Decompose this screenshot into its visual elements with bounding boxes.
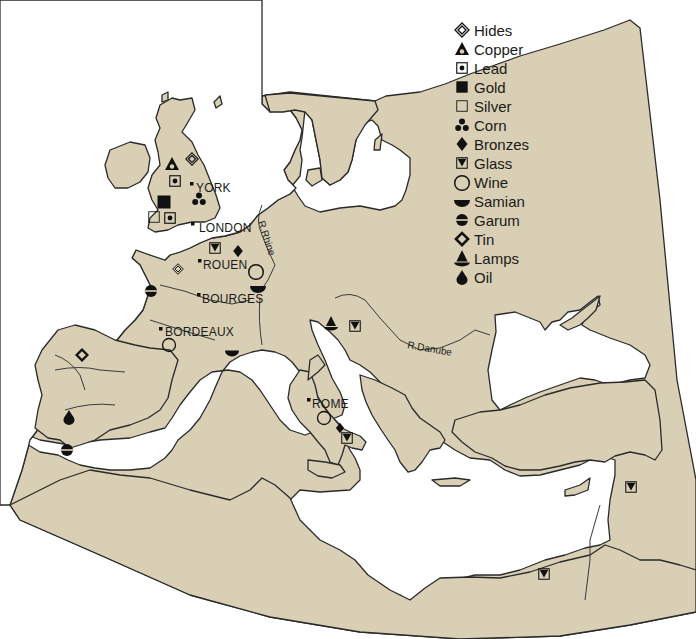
svg-text:Garum: Garum <box>474 212 520 229</box>
hides-icon <box>455 23 469 37</box>
gold-icon <box>456 81 467 92</box>
svg-text:ROUEN: ROUEN <box>203 258 247 272</box>
svg-text:ROME: ROME <box>312 397 349 411</box>
svg-text:YORK: YORK <box>196 181 231 195</box>
svg-text:Lamps: Lamps <box>474 250 519 267</box>
gold-icon <box>158 196 171 209</box>
city-london: LONDON <box>191 221 252 235</box>
legend-item-lead: Lead <box>457 60 508 77</box>
svg-text:Gold: Gold <box>474 79 506 96</box>
svg-text:Lead: Lead <box>474 60 507 77</box>
svg-text:BORDEAUX: BORDEAUX <box>165 325 234 339</box>
svg-text:Glass: Glass <box>474 155 512 172</box>
trade-map: YORK LONDON ROUEN BOURGES BORDEAUX ROME … <box>0 0 696 639</box>
svg-text:Corn: Corn <box>474 117 507 134</box>
svg-text:Copper: Copper <box>474 41 523 58</box>
city-york: YORK <box>190 181 231 195</box>
svg-text:Wine: Wine <box>474 174 508 191</box>
city-rome: ROME <box>307 397 349 411</box>
legend-item-copper: Copper <box>455 41 523 58</box>
svg-text:Tin: Tin <box>474 231 494 248</box>
svg-text:Hides: Hides <box>474 22 512 39</box>
svg-text:LONDON: LONDON <box>199 221 252 235</box>
city-bourges: BOURGES <box>197 292 263 306</box>
copper-icon <box>455 42 469 55</box>
city-rouen: ROUEN <box>198 258 247 272</box>
svg-text:Silver: Silver <box>474 98 512 115</box>
svg-text:Oil: Oil <box>474 269 492 286</box>
svg-text:Samian: Samian <box>474 193 525 210</box>
svg-text:BOURGES: BOURGES <box>202 292 263 306</box>
svg-text:Bronzes: Bronzes <box>474 136 529 153</box>
legend-item-hides: Hides <box>455 22 512 39</box>
lead-icon <box>457 63 468 74</box>
legend-item-oil: Oil <box>457 269 493 286</box>
city-bordeaux: BORDEAUX <box>159 325 234 339</box>
